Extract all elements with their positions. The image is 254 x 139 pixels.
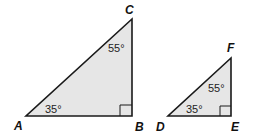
triangle-abc: 35° 55° A B C [13, 3, 144, 134]
angle-d-label: 35° [186, 103, 203, 115]
vertex-f-label: F [227, 41, 235, 55]
angle-a-label: 35° [45, 103, 62, 115]
triangle-def: 35° 55° D E F [156, 41, 240, 134]
vertex-c-label: C [125, 3, 134, 17]
vertex-b-label: B [135, 120, 144, 134]
vertex-a-label: A [13, 119, 23, 133]
vertex-d-label: D [156, 120, 165, 134]
vertex-e-label: E [231, 120, 240, 134]
similar-triangles-diagram: 35° 55° A B C 35° 55° D E F [0, 0, 254, 139]
triangle-abc-shape [26, 19, 132, 116]
angle-f-label: 55° [208, 82, 225, 94]
angle-c-label: 55° [108, 42, 125, 54]
